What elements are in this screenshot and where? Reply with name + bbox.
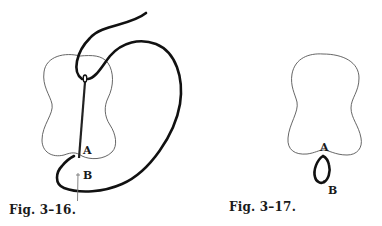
- figure-3-17: A B Fig. 3–17.: [191, 0, 382, 226]
- figure-caption: Fig. 3–16.: [9, 203, 76, 217]
- thread-end-b: [78, 173, 79, 201]
- fabric-outline: [42, 55, 116, 159]
- figure-caption: Fig. 3–17.: [229, 200, 296, 214]
- figure-3-17-illustration: [191, 0, 382, 226]
- figure-3-16-illustration: [0, 0, 191, 226]
- needle-eye: [83, 75, 87, 82]
- point-a-label: A: [83, 145, 92, 156]
- point-b-label: B: [328, 185, 337, 196]
- point-b-dot: [323, 181, 326, 184]
- fabric-outline: [288, 54, 361, 155]
- thread-small-loop: [314, 156, 329, 183]
- figure-3-16: A B Fig. 3–16.: [0, 0, 191, 226]
- point-b-label: B: [83, 170, 92, 181]
- point-a-label: A: [320, 142, 329, 153]
